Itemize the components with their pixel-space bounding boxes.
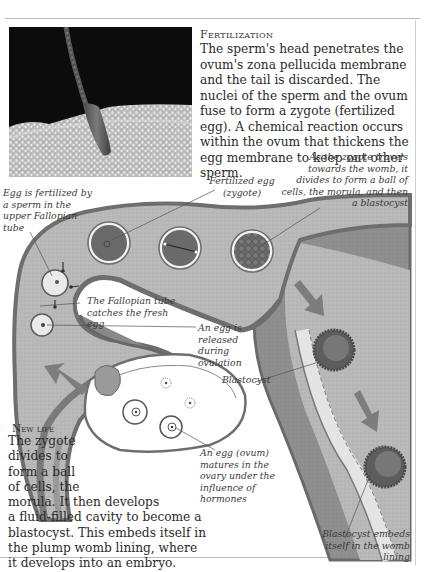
- new-life-line: the plump womb lining, where: [0, 541, 195, 556]
- follicle-3: [161, 378, 171, 388]
- new-life-section: New life The zygote divides to form a ba…: [0, 422, 195, 572]
- new-life-heading: New life: [0, 422, 195, 434]
- new-life-line: morula. It then develops: [0, 495, 195, 510]
- new-life-line: form a ball: [0, 465, 195, 480]
- top-rule: [5, 18, 420, 19]
- blastocyst-1: [314, 330, 354, 370]
- follicle-4: [185, 398, 195, 408]
- new-life-line: divides to: [0, 449, 195, 464]
- label-blastocyst-embeds: Blastocyst embeds itself in the womb lin…: [298, 528, 410, 563]
- new-life-line: The zygote: [0, 434, 195, 449]
- label-zygote-travels: As the zygote travels towards the womb, …: [280, 151, 408, 209]
- two-cell-stage: [159, 227, 201, 269]
- label-tube-catches: The Fallopian tube catches the fresh egg: [87, 295, 182, 330]
- label-egg-matures: An egg (ovum) matures in the ovary under…: [200, 447, 278, 505]
- new-life-line: a fluid-filled cavity to become a: [0, 510, 195, 525]
- label-fertilized-egg: Fertilized egg (zygote): [207, 175, 277, 198]
- blastocyst-2: [365, 447, 405, 487]
- new-life-line: it develops into an embryo.: [0, 556, 195, 571]
- label-blastocyst: Blastocyst: [222, 374, 282, 386]
- label-egg-released: An egg is released during ovulation: [198, 322, 260, 368]
- morula: [231, 230, 273, 272]
- label-egg-fertilized: Egg is fertilized by a sperm in the uppe…: [3, 187, 98, 233]
- follicle-1: [123, 400, 147, 424]
- fertilization-heading: Fertilization: [200, 28, 415, 41]
- new-life-line: of cells, the: [0, 480, 195, 495]
- new-life-line: blastocyst. This embeds itself in: [0, 526, 195, 541]
